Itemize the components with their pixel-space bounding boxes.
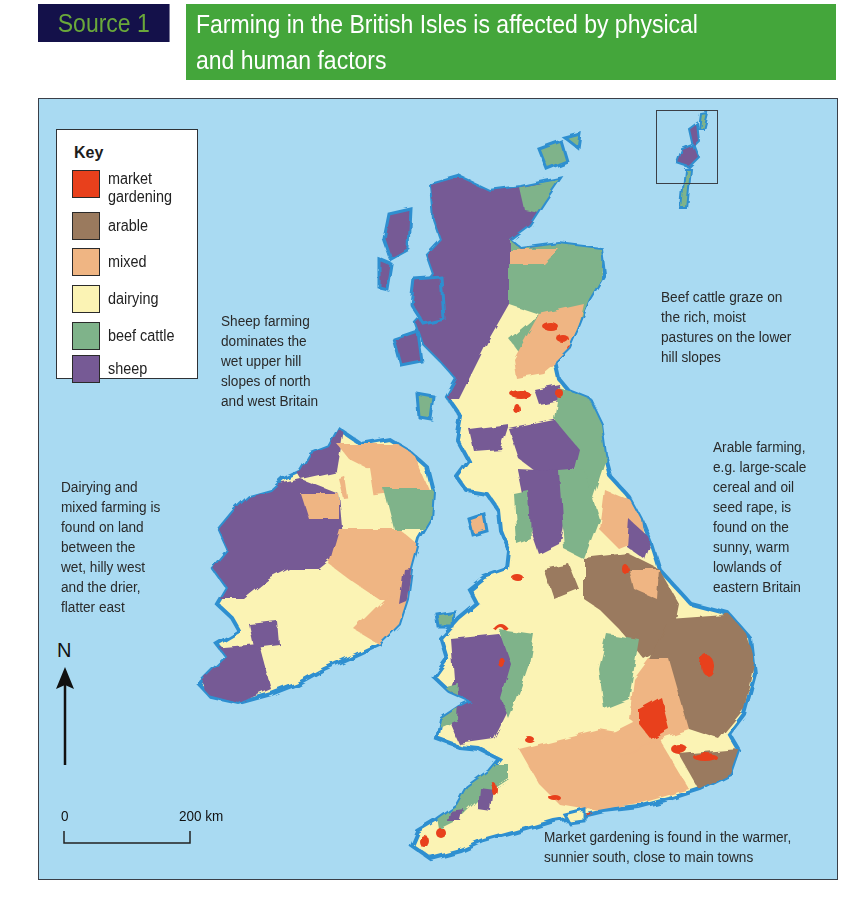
key-item-sheep: sheep <box>72 358 152 383</box>
key-label: market <box>108 170 152 187</box>
swatch-arable <box>72 212 100 240</box>
north-label: N <box>57 639 71 662</box>
key-item-market-gardening: market gardening <box>72 170 179 206</box>
key-label: gardening <box>108 188 172 205</box>
key-item-beef-cattle: beef cattle <box>72 322 182 350</box>
source-label: Source 1 <box>58 9 150 37</box>
key-item-dairying: dairying <box>72 285 164 313</box>
swatch-dairying <box>72 285 100 313</box>
key-label: mixed <box>108 253 146 271</box>
key-label: beef cattle <box>108 327 174 345</box>
figure-title: Farming in the British Isles is affected… <box>186 4 836 80</box>
key-item-mixed: mixed <box>72 248 151 276</box>
farming-map: Key market gardening arable mixed dairyi… <box>38 98 838 880</box>
scale-start: 0 <box>61 807 69 824</box>
island-lewis <box>384 209 411 259</box>
island-mull <box>394 331 421 365</box>
annotation-sheep: Sheep farming dominates the wet upper hi… <box>221 311 318 411</box>
arrow-up-icon <box>53 667 83 797</box>
inset-frame-shetland <box>656 110 718 184</box>
swatch-market-gardening <box>72 170 100 198</box>
annotation-beef-cattle: Beef cattle graze on the rich, moist pas… <box>661 287 791 367</box>
swatch-sheep <box>72 355 100 383</box>
key-label: dairying <box>108 290 158 308</box>
swatch-mixed <box>72 248 100 276</box>
island-orkney <box>539 141 567 169</box>
title-line-1: Farming in the British Isles is affected… <box>196 6 698 42</box>
annotation-dairy-mixed: Dairying and mixed farming is found on l… <box>61 477 160 617</box>
annotation-arable: Arable farming, e.g. large-scale cereal … <box>713 437 806 597</box>
annotation-market-gardening: Market gardening is found in the warmer,… <box>544 827 791 867</box>
key-item-arable: arable <box>72 212 152 240</box>
key-label: sheep <box>108 360 147 378</box>
source-badge: Source 1 <box>38 4 170 42</box>
scale-line <box>61 829 201 859</box>
island-islay <box>417 394 434 419</box>
swatch-beef-cattle <box>72 322 100 350</box>
island-skye <box>411 277 444 324</box>
island-isle-of-man <box>469 514 487 535</box>
key-title: Key <box>74 144 103 162</box>
map-key: Key market gardening arable mixed dairyi… <box>56 129 198 379</box>
island-anglesey <box>437 611 454 627</box>
key-label: arable <box>108 217 148 235</box>
title-line-2: and human factors <box>196 42 387 78</box>
scale-end: 200 km <box>179 807 223 824</box>
